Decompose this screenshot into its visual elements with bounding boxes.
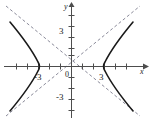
origin-label: 0 (65, 71, 69, 79)
hyperbola-figure: -3 3 0 3 -3 x y (0, 0, 151, 122)
plot-canvas (0, 0, 151, 122)
y-tick-label-negative-three: -3 (56, 93, 64, 102)
y-axis-arrowhead (69, 2, 75, 7)
x-tick-label-positive-three: 3 (99, 73, 104, 82)
y-tick-label-positive-three: 3 (59, 27, 64, 36)
axis-group (4, 2, 149, 118)
x-tick-label-negative-three: -3 (34, 73, 42, 82)
x-axis-label: x (140, 68, 144, 76)
y-axis-label: y (64, 3, 68, 11)
